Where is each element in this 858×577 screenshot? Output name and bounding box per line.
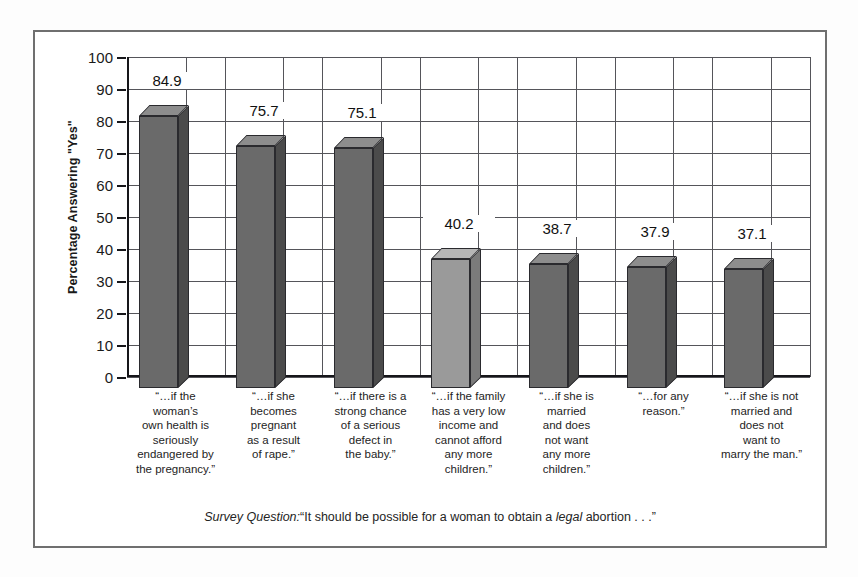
category-label-line: children.” (508, 462, 625, 477)
gridline-horizontal (127, 57, 810, 58)
bar-front-face (627, 267, 666, 388)
bar-side-face (763, 259, 774, 388)
y-tick-mark (117, 249, 126, 251)
category-label-line: want to (703, 433, 820, 448)
gridline-horizontal (127, 121, 810, 122)
bar-side-face (470, 249, 481, 388)
bar-value-label: 38.7 (521, 220, 593, 237)
bar-side-face (275, 135, 286, 388)
bar-front-face (724, 269, 763, 388)
y-axis-line (127, 57, 129, 377)
y-tick-label: 0 (105, 369, 113, 386)
y-tick-mark (117, 89, 126, 91)
bar-side-face (666, 256, 677, 388)
bar (724, 269, 763, 388)
caption-emphasis: legal (556, 510, 582, 524)
y-tick-mark (117, 217, 126, 219)
y-tick-label: 10 (96, 337, 113, 354)
gridline-horizontal (127, 153, 810, 154)
bar (139, 116, 178, 388)
bar-value-label: 37.1 (716, 225, 788, 242)
bar-side-face (373, 137, 384, 388)
y-tick-mark (117, 153, 126, 155)
y-tick-label: 100 (88, 49, 113, 66)
y-tick-mark (117, 185, 126, 187)
bar-side-face (178, 106, 189, 388)
category-label-line: any more (508, 447, 625, 462)
y-tick-mark (117, 377, 126, 379)
survey-question-caption: Survey Question:“It should be possible f… (35, 510, 825, 524)
category-label-line: the pregnancy.” (117, 462, 234, 477)
y-tick-mark (117, 121, 126, 123)
category-label-line: “…if she is not (703, 389, 820, 404)
gridline-vertical (420, 57, 421, 377)
y-tick-label: 60 (96, 177, 113, 194)
bar-front-face (529, 264, 568, 388)
category-label-line: and does (508, 418, 625, 433)
y-tick-label: 40 (96, 241, 113, 258)
category-label: “…if she is notmarried anddoes notwant t… (703, 389, 820, 462)
category-label-line: marry the man.” (703, 447, 820, 462)
bar-value-label: 75.1 (326, 104, 398, 121)
bar-front-face (139, 116, 178, 388)
caption-prefix: Survey Question: (204, 510, 300, 524)
category-label-line: married and (703, 404, 820, 419)
gridline-vertical (322, 57, 323, 377)
bar (236, 146, 275, 388)
bar-front-face (236, 146, 275, 388)
bar (431, 259, 470, 388)
y-tick-label: 30 (96, 273, 113, 290)
category-labels: “…if thewoman’sown health isseriouslyend… (127, 389, 810, 509)
caption-text: “It should be possible for a woman to ob… (300, 510, 556, 524)
caption-suffix: abortion . . .” (582, 510, 656, 524)
chart-page: Percentage Answering "Yes" 1009080706050… (0, 0, 858, 577)
bar-front-face (431, 259, 470, 388)
bar (529, 264, 568, 388)
category-label-line: does not (703, 418, 820, 433)
y-tick-mark (117, 345, 126, 347)
plot-area: 1009080706050403020100 84.975.775.140.23… (127, 57, 810, 377)
y-tick-label: 80 (96, 113, 113, 130)
bar (627, 267, 666, 388)
bar-front-face (334, 148, 373, 388)
bar-value-label: 37.9 (619, 223, 691, 240)
y-tick-mark (117, 57, 126, 59)
y-tick-label: 20 (96, 305, 113, 322)
gridline-vertical (712, 57, 713, 377)
bar-side-face (568, 254, 579, 388)
bar-value-label: 40.2 (423, 215, 495, 232)
bar-value-label: 75.7 (228, 102, 300, 119)
gridline-vertical (225, 57, 226, 377)
y-tick-mark (117, 281, 126, 283)
figure-frame: Percentage Answering "Yes" 1009080706050… (33, 30, 827, 548)
bar (334, 148, 373, 388)
gridline-vertical (810, 57, 811, 377)
y-tick-label: 50 (96, 209, 113, 226)
y-axis-title: Percentage Answering "Yes" (66, 107, 80, 307)
category-label-line: not want (508, 433, 625, 448)
y-tick-mark (117, 313, 126, 315)
gridline-horizontal (127, 185, 810, 186)
gridline-vertical (615, 57, 616, 377)
y-tick-label: 70 (96, 145, 113, 162)
gridline-vertical (517, 57, 518, 377)
bar-value-label: 84.9 (131, 72, 203, 89)
y-tick-label: 90 (96, 81, 113, 98)
gridline-horizontal (127, 89, 810, 90)
